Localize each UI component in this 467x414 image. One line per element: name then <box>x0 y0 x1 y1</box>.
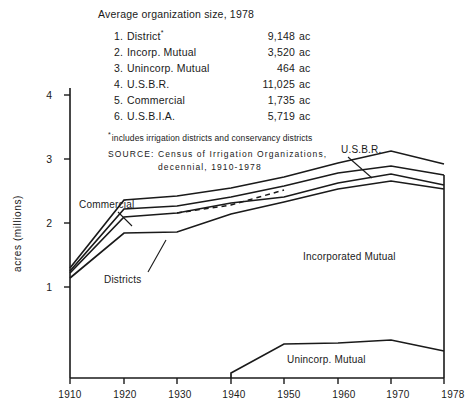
unincorp-mutual-label: Unincorp. Mutual <box>287 354 366 365</box>
commercial-label: Commercial <box>79 199 134 210</box>
incorporated-mutual-label: Incorporated Mutual <box>303 251 396 262</box>
leader-line-districts <box>148 240 166 272</box>
figure-root: Average organization size, 1978 1. Distr… <box>0 0 467 414</box>
usbr-label: U.S.B.R. <box>341 144 382 155</box>
series-line-incorporated-mutual <box>70 181 444 278</box>
districts-label: Districts <box>104 274 141 285</box>
chart-plot-area <box>0 0 467 414</box>
y-axis-ticks <box>64 95 70 287</box>
leader-line-commercial <box>118 212 132 226</box>
leader-line-usbr <box>348 157 372 178</box>
x-axis-ticks <box>70 378 444 384</box>
